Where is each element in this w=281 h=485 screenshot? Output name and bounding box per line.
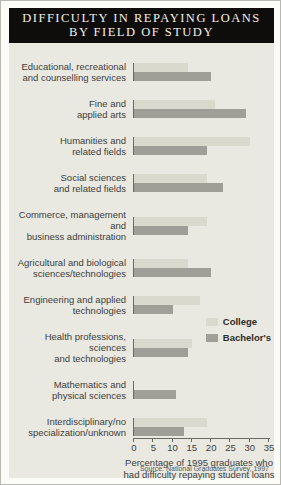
bar-group: Fine andapplied arts xyxy=(9,98,274,120)
chart-title-line2: BY FIELD OF STUDY xyxy=(11,25,272,39)
category-label: Engineering and appliedtechnologies xyxy=(9,294,133,316)
category-label: Health professions, sciencesand technolo… xyxy=(9,331,133,364)
bar-college xyxy=(134,63,188,72)
bar-group: Agricultural and biologicalsciences/tech… xyxy=(9,257,274,279)
category-label: Interdisciplinary/nospecialization/unkno… xyxy=(9,416,133,438)
category-label: Humanities andrelated fields xyxy=(9,135,133,157)
axis-tick-label: 30 xyxy=(244,442,255,453)
chart-title: DIFFICULTY IN REPAYING LOANS BY FIELD OF… xyxy=(9,8,274,43)
bar-group: Commerce, management andbusiness adminis… xyxy=(9,209,274,242)
bar-bachelors xyxy=(134,305,173,314)
legend-label: College xyxy=(223,316,257,327)
bar-group: Engineering and appliedtechnologies xyxy=(9,294,274,316)
infographic: DIFFICULTY IN REPAYING LOANS BY FIELD OF… xyxy=(9,8,274,478)
bar-bachelors xyxy=(134,390,176,399)
legend-label: Bachelor's xyxy=(223,332,271,343)
legend-swatch xyxy=(206,318,218,326)
bar-group: Educational, recreationaland counselling… xyxy=(9,61,274,83)
category-label: Fine andapplied arts xyxy=(9,98,133,120)
bar-bachelors xyxy=(134,427,184,436)
bar-bachelors xyxy=(134,109,246,118)
bar-bachelors xyxy=(134,146,207,155)
category-label: Agricultural and biologicalsciences/tech… xyxy=(9,257,133,279)
legend-swatch xyxy=(206,334,218,342)
chart-title-line1: DIFFICULTY IN REPAYING LOANS xyxy=(11,11,272,25)
axis-tick-label: 5 xyxy=(151,442,156,453)
bar-college xyxy=(134,259,188,268)
bar-college xyxy=(134,217,207,226)
chart-panel: Educational, recreationaland counselling… xyxy=(9,43,274,478)
axis-tick-label: 35 xyxy=(264,442,275,453)
axis-tick-label: 25 xyxy=(225,442,236,453)
bar-college xyxy=(134,296,200,305)
axis-tick-label: 10 xyxy=(167,442,178,453)
category-label: Commerce, management andbusiness adminis… xyxy=(9,209,133,242)
bar-college xyxy=(134,339,192,348)
bar-college xyxy=(134,137,250,146)
axis-tick-label: 20 xyxy=(206,442,217,453)
bar-bachelors xyxy=(134,183,223,192)
axis-tick-label: 0 xyxy=(131,442,136,453)
axis-tick-label: 15 xyxy=(187,442,198,453)
bar-college xyxy=(134,418,207,427)
bar-group: Mathematics andphysical sciences xyxy=(9,379,274,401)
category-label: Educational, recreationaland counselling… xyxy=(9,61,133,83)
source-note: Source: National Graduates Survey, 1997 xyxy=(140,465,269,472)
legend-item-bachelors: Bachelor's xyxy=(206,332,271,343)
category-label: Social sciencesand related fields xyxy=(9,172,133,194)
bar-group: Social sciencesand related fields xyxy=(9,172,274,194)
bar-bachelors xyxy=(134,226,188,235)
legend-item-college: College xyxy=(206,316,271,327)
legend: CollegeBachelor's xyxy=(206,316,271,348)
bar-chart: Educational, recreationaland counselling… xyxy=(9,61,274,438)
bar-college xyxy=(134,100,215,109)
bar-bachelors xyxy=(134,348,188,357)
bar-group: Humanities andrelated fields xyxy=(9,135,274,157)
x-axis: 05101520253035 xyxy=(133,438,270,454)
category-label: Mathematics andphysical sciences xyxy=(9,379,133,401)
bar-bachelors xyxy=(134,268,211,277)
bar-college xyxy=(134,174,207,183)
bar-group: Interdisciplinary/nospecialization/unkno… xyxy=(9,416,274,438)
bar-bachelors xyxy=(134,72,211,81)
